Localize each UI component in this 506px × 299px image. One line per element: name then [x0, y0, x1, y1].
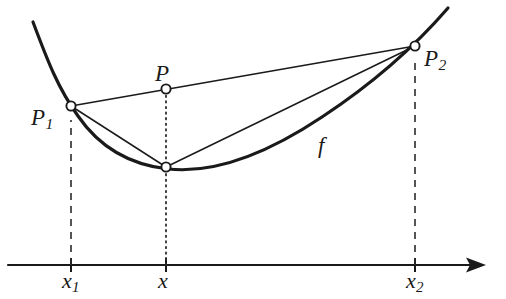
label-curve-f: f [318, 134, 324, 157]
label-x1-base: x [62, 268, 72, 293]
chord-p1-fx [71, 106, 166, 167]
label-x-base: x [158, 268, 168, 293]
label-x2-base: x [406, 268, 416, 293]
label-p-base: P [155, 61, 169, 86]
label-x: x [158, 270, 168, 292]
label-p1: P1 [31, 106, 53, 132]
function-curve [33, 8, 448, 170]
point-marker-p1 [66, 101, 75, 110]
chord-fx-p2 [166, 46, 415, 167]
point-marker-fx [161, 162, 170, 171]
figure-canvas [0, 0, 506, 299]
label-p2-subscript: 2 [438, 56, 446, 73]
label-x2: x2 [406, 270, 424, 295]
label-p: P [155, 62, 169, 85]
point-marker-p2 [410, 41, 419, 50]
chord-p1-p2 [71, 46, 415, 106]
label-p1-base: P [31, 105, 45, 130]
label-x2-subscript: 2 [416, 279, 423, 295]
label-p2-base: P [424, 46, 438, 71]
label-p2: P2 [424, 47, 446, 73]
label-x1: x1 [62, 270, 80, 295]
convexity-figure: P1 P2 P f x1 x x2 [0, 0, 506, 299]
label-x1-subscript: 1 [72, 279, 79, 295]
label-curve-f-text: f [318, 133, 324, 158]
label-p1-subscript: 1 [45, 115, 53, 132]
